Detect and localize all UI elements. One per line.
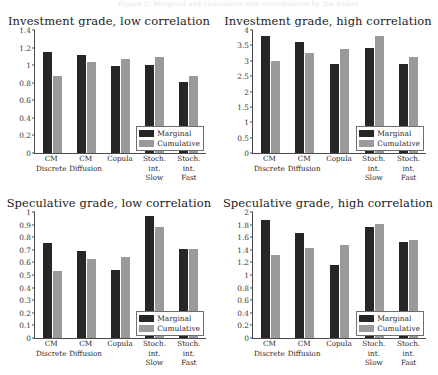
x-axis-label: CM Discrete	[252, 154, 287, 178]
legend-label-cumulative: Cumulative	[157, 324, 200, 333]
bar-cumulative	[305, 53, 314, 153]
legend-swatch-marginal-icon	[359, 315, 374, 322]
bar-cumulative	[340, 49, 349, 153]
bar-marginal	[295, 42, 304, 153]
legend-entry-cumulative: Cumulative	[359, 139, 420, 148]
legend-label-marginal: Marginal	[377, 129, 411, 138]
bar-group	[69, 212, 103, 338]
y-axis-tick-mark	[32, 82, 35, 83]
x-axis-label: Copula	[322, 339, 357, 363]
x-axis-label: Stoch. int. Slow	[356, 154, 391, 178]
bar-cumulative	[121, 59, 130, 153]
bar-marginal	[111, 270, 120, 338]
y-axis-tick-mark	[32, 30, 35, 31]
y-axis-tick-mark	[250, 45, 253, 46]
bar-group	[288, 30, 323, 153]
legend-label-cumulative: Cumulative	[377, 324, 420, 333]
bar-marginal	[330, 265, 339, 338]
chart-panel-speculative-low: Speculative grade, low correlation Margi…	[0, 190, 218, 375]
legend-swatch-marginal-icon	[139, 130, 154, 137]
x-axis-label: Stoch. int. Slow	[356, 339, 391, 363]
y-axis-tick-mark	[250, 76, 253, 77]
y-axis-tick-mark	[250, 30, 253, 31]
x-axis-label: Stoch. int. Fast	[391, 154, 426, 178]
bar-cumulative	[53, 76, 62, 153]
y-axis-tick-mark	[32, 249, 35, 250]
x-axis-label: CM Discrete	[252, 339, 287, 363]
y-axis-tick-mark	[32, 262, 35, 263]
chart-legend: Marginal Cumulative	[356, 311, 424, 336]
bar-group	[103, 212, 137, 338]
bar-group	[253, 30, 288, 153]
chart-panel-investment-high: Investment grade, high correlation Margi…	[218, 8, 438, 190]
x-axis-labels: CM DiscreteCM DiffusionCopulaStoch. int.…	[252, 154, 426, 178]
chart-legend: Marginal Cumulative	[356, 126, 424, 151]
y-axis-tick-mark	[250, 287, 253, 288]
bar-group	[35, 212, 69, 338]
x-axis-label: CM Discrete	[34, 154, 68, 178]
y-axis-tick-mark	[250, 300, 253, 301]
bar-cumulative	[87, 62, 96, 153]
bar-cumulative	[53, 271, 62, 338]
y-axis-tick-mark	[32, 325, 35, 326]
chart-legend: Marginal Cumulative	[136, 311, 204, 336]
bar-marginal	[77, 251, 86, 338]
y-axis-tick-mark	[32, 275, 35, 276]
bar-cumulative	[87, 259, 96, 338]
bar-marginal	[295, 233, 304, 338]
y-axis-tick-mark	[250, 122, 253, 123]
y-axis-tick-mark	[32, 212, 35, 213]
x-axis-label: CM Diffusion	[68, 154, 102, 178]
x-axis-label: Stoch. int. Fast	[172, 339, 206, 363]
y-axis-tick-mark	[32, 312, 35, 313]
plot-area: Marginal Cumulative 00.511.522.533.54	[252, 30, 426, 154]
plot-area: Marginal Cumulative 00.10.20.30.40.50.60…	[34, 212, 206, 339]
bar-marginal	[43, 243, 52, 338]
bar-group	[103, 30, 137, 153]
legend-entry-marginal: Marginal	[139, 314, 200, 323]
y-axis-tick-mark	[250, 106, 253, 107]
y-axis-tick-mark	[250, 262, 253, 263]
y-axis-tick-mark	[250, 212, 253, 213]
x-axis-label: Stoch. int. Fast	[391, 339, 426, 363]
bar-group	[35, 30, 69, 153]
legend-entry-marginal: Marginal	[139, 129, 200, 138]
legend-swatch-cumulative-icon	[139, 140, 154, 147]
y-axis-tick-mark	[250, 275, 253, 276]
bar-cumulative	[121, 257, 130, 338]
x-axis-label: Stoch. int. Slow	[137, 339, 171, 363]
y-axis-tick-mark	[32, 47, 35, 48]
x-axis-label: CM Discrete	[34, 339, 68, 363]
legend-swatch-marginal-icon	[359, 130, 374, 137]
bar-cumulative	[340, 245, 349, 338]
y-axis-tick-mark	[32, 237, 35, 238]
x-axis-label: CM Diffusion	[287, 339, 322, 363]
legend-swatch-marginal-icon	[139, 315, 154, 322]
y-axis-tick-mark	[250, 91, 253, 92]
plot-area: Marginal Cumulative 00.20.40.60.811.21.4…	[252, 212, 426, 339]
chart-panel-investment-low: Investment grade, low correlation Margin…	[0, 8, 218, 190]
y-axis-tick-mark	[250, 60, 253, 61]
legend-swatch-cumulative-icon	[359, 325, 374, 332]
legend-entry-cumulative: Cumulative	[139, 139, 200, 148]
bar-marginal	[111, 66, 120, 153]
bar-marginal	[261, 220, 270, 338]
bar-group	[253, 212, 288, 338]
bar-marginal	[261, 36, 270, 153]
y-axis-tick-mark	[250, 325, 253, 326]
legend-entry-cumulative: Cumulative	[139, 324, 200, 333]
y-axis-tick-mark	[250, 224, 253, 225]
legend-entry-cumulative: Cumulative	[359, 324, 420, 333]
legend-entry-marginal: Marginal	[359, 129, 420, 138]
y-axis-tick-mark	[32, 65, 35, 66]
x-axis-labels: CM DiscreteCM DiffusionCopulaStoch. int.…	[34, 339, 206, 363]
bar-marginal	[330, 64, 339, 153]
y-axis-tick-mark	[32, 300, 35, 301]
chart-legend: Marginal Cumulative	[136, 126, 204, 151]
x-axis-label: CM Diffusion	[287, 154, 322, 178]
y-axis-tick-mark	[32, 100, 35, 101]
legend-label-cumulative: Cumulative	[157, 139, 200, 148]
x-axis-label: Copula	[103, 154, 137, 178]
x-axis-label: Copula	[322, 154, 357, 178]
x-axis-label: CM Diffusion	[68, 339, 102, 363]
